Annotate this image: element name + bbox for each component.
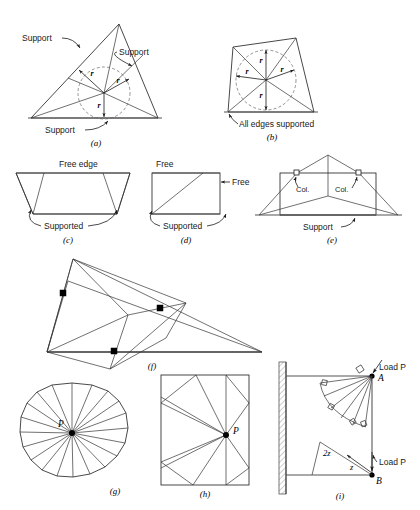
fan-arc-i: [320, 383, 366, 427]
figure-svg: r r r Support Support Support (a) r r: [0, 0, 420, 510]
panel-caption-d: (d): [181, 235, 192, 245]
panel-caption-b: (b): [267, 132, 278, 142]
edges-supported-leader: [229, 114, 238, 124]
right-angle-markers-i: [321, 380, 366, 427]
panel-caption-g: (g): [110, 486, 121, 496]
free-edge-label-c: Free edge: [59, 159, 98, 169]
column-marker-f-1: [60, 290, 66, 296]
load-point-h: [223, 432, 229, 438]
all-edges-supported-label: All edges supported: [239, 119, 314, 129]
support-leader-e: [341, 218, 355, 227]
panel-caption-i: (i): [336, 491, 345, 501]
column-marker-f-2: [157, 305, 163, 311]
radius-label-b-4: r: [259, 91, 263, 100]
radius-label-a-1: r: [90, 69, 94, 78]
column-marker-e-left: [294, 170, 299, 175]
radius-label-a-3: r: [97, 101, 101, 110]
right-angle-marker-a: [356, 365, 364, 373]
column-marker-f-3: [111, 348, 117, 354]
panel-b: r r r r All edges supported (b): [224, 38, 318, 142]
support-label-a-left: Support: [22, 33, 52, 43]
load-label-b: Load P: [379, 457, 406, 467]
radius-arrow-b-2: [236, 76, 266, 80]
panel-d: Free Free Supported (d): [150, 159, 250, 245]
supported-leader-c-left: [29, 210, 41, 226]
panel-g: P (g): [20, 383, 128, 496]
supported-leader-d-right: [207, 214, 226, 226]
panel-c: Free edge Supported (c): [16, 159, 130, 245]
support-label-a-right: Support: [119, 47, 149, 57]
supported-leader-c-right: [88, 210, 117, 226]
support-label-a-bottom: Support: [45, 125, 75, 135]
free-label-d-right: Free: [232, 177, 250, 187]
point-label-h: P: [232, 426, 239, 436]
panel-caption-e: (e): [327, 235, 337, 245]
supported-label-d: Supported: [163, 221, 202, 231]
wall-hatch: [279, 362, 286, 494]
panel-a: r r r Support Support Support (a): [22, 24, 162, 148]
radius-label-b-3: r: [280, 65, 284, 74]
panel-caption-c: (c): [63, 235, 73, 245]
support-leader-a-bottom: [85, 121, 108, 130]
panel-f: (f): [47, 259, 262, 371]
load-point-g: [69, 430, 75, 436]
panel-e: Col. Col. Support (e): [255, 155, 402, 245]
panel-caption-h: (h): [200, 489, 211, 499]
free-label-d-top: Free: [156, 159, 174, 169]
support-leader-a-left: [62, 38, 80, 48]
panel-caption-a: (a): [91, 138, 102, 148]
support-label-e: Support: [303, 222, 333, 232]
column-marker-e-right: [356, 170, 361, 175]
radius-label-b-2: r: [245, 67, 249, 76]
col-leader-e-right: [352, 177, 357, 188]
panel-i: A B z 2z Load P: [279, 360, 406, 501]
panel-h: P (h): [161, 375, 249, 499]
z-label: z: [349, 462, 354, 472]
supported-label-c: Supported: [44, 221, 83, 231]
figure-container: r r r Support Support Support (a) r r: [0, 0, 420, 510]
load-label-a: Load P: [379, 362, 406, 372]
point-label-b: B: [376, 476, 382, 486]
point-label-g: P: [57, 419, 64, 429]
fan-rays-g: [20, 383, 128, 477]
radius-label-b-1: r: [259, 56, 263, 65]
two-z-label: 2z: [323, 448, 331, 458]
col-label-e-right: Col.: [335, 185, 348, 194]
load-leader-b: [373, 455, 377, 462]
panel-caption-f: (f): [148, 361, 157, 371]
point-label-a: A: [377, 373, 384, 383]
